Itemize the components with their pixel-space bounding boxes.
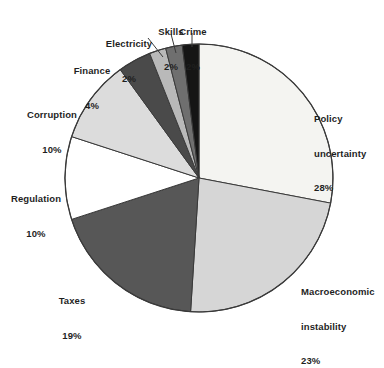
slice-label-value: 10% [4, 228, 68, 240]
slice-label-line: Taxes [40, 295, 104, 307]
slice-label-line: uncertainty [314, 148, 366, 160]
slice-label-value: 23% [301, 355, 375, 367]
slice-label-value: 19% [40, 330, 104, 342]
slice-label-line: Crime [171, 26, 215, 38]
slice-label-value: 10% [20, 144, 84, 156]
slice-label-crime: Crime 2% [171, 3, 215, 95]
slice-label-line: Policy [314, 113, 366, 125]
slice-label-macroeconomic-instability: Macroeconomic instability 23% [301, 263, 375, 368]
pie-slice-policy-uncertainty[interactable] [199, 44, 333, 203]
slice-label-taxes: Taxes 19% [40, 272, 104, 364]
slice-label-value: 28% [314, 182, 366, 194]
slice-label-policy-uncertainty: Policy uncertainty 28% [314, 90, 366, 217]
slice-label-line: Macroeconomic [301, 286, 375, 298]
slice-label-line: Regulation [4, 193, 68, 205]
slice-label-regulation: Regulation 10% [4, 170, 68, 262]
slice-label-line: instability [301, 321, 375, 333]
slice-label-value: 2% [171, 61, 215, 73]
